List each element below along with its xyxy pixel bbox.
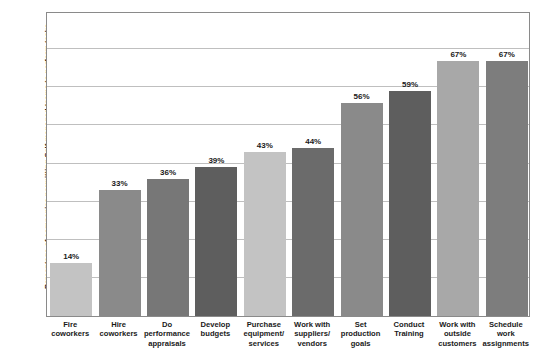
x-axis-label: Firecoworkers: [46, 320, 94, 339]
bar-value-label: 43%: [257, 141, 273, 150]
bar-group: 43%: [244, 11, 286, 316]
x-axis-label-line: Schedule: [482, 320, 530, 329]
bar-value-label: 36%: [160, 168, 176, 177]
x-axis-label-line: customers: [433, 339, 481, 348]
x-axis-label-line: production: [336, 329, 384, 338]
bar: [50, 263, 92, 316]
x-axis-label-line: services: [240, 339, 288, 348]
x-axis-label: Purchaseequipment/services: [240, 320, 288, 348]
bar: [341, 103, 383, 317]
bar-group: 36%: [147, 11, 189, 316]
x-axis-label-line: Hire: [94, 320, 142, 329]
bar-value-label: 67%: [450, 50, 466, 59]
x-axis-label: Work withsuppliers/vendors: [288, 320, 336, 348]
x-axis-label-line: Purchase: [240, 320, 288, 329]
bar-group: 67%: [486, 11, 528, 316]
bar-group: 14%: [50, 11, 92, 316]
x-axis-label: Scheduleworkassignments: [482, 320, 530, 348]
bar-group: 67%: [437, 11, 479, 316]
bar-value-label: 59%: [402, 80, 418, 89]
x-axis-label: Doperformanceappraisals: [143, 320, 191, 348]
bar: [292, 148, 334, 316]
x-axis-label-line: performance: [143, 329, 191, 338]
bar-value-label: 67%: [499, 50, 515, 59]
bar-value-label: 14%: [63, 252, 79, 261]
x-axis-label-line: budgets: [191, 329, 239, 338]
x-axis-label-line: work: [482, 329, 530, 338]
x-axis-label-line: Work with: [433, 320, 481, 329]
x-axis-label-line: suppliers/: [288, 329, 336, 338]
bar-value-label: 39%: [208, 156, 224, 165]
x-axis-label: Developbudgets: [191, 320, 239, 339]
x-axis-label-line: Conduct: [385, 320, 433, 329]
bar: [389, 91, 431, 316]
bar: [99, 190, 141, 316]
bar-group: 33%: [99, 11, 141, 316]
bars-layer: 14%33%36%39%43%44%56%59%67%67%: [47, 13, 529, 316]
bar-group: 59%: [389, 11, 431, 316]
bar: [486, 61, 528, 316]
x-axis-label-line: Training: [385, 329, 433, 338]
bar-group: 44%: [292, 11, 334, 316]
plot-area: 14%33%36%39%43%44%56%59%67%67%: [46, 12, 530, 317]
bar: [244, 152, 286, 316]
x-axis-label-line: assignments: [482, 339, 530, 348]
x-axis-labels: FirecoworkersHirecoworkersDoperformancea…: [46, 320, 530, 359]
x-axis-label-line: Do: [143, 320, 191, 329]
x-axis-label-line: coworkers: [46, 329, 94, 338]
x-axis-label-line: coworkers: [94, 329, 142, 338]
bar-value-label: 44%: [305, 137, 321, 146]
x-axis-label-line: Fire: [46, 320, 94, 329]
x-axis-label: ConductTraining: [385, 320, 433, 339]
bar-group: 56%: [341, 11, 383, 316]
x-axis-label-line: appraisals: [143, 339, 191, 348]
x-axis-label-line: Set: [336, 320, 384, 329]
x-axis-label: Setproductiongoals: [336, 320, 384, 348]
bar: [195, 167, 237, 316]
bar: [147, 179, 189, 316]
x-axis-label-line: Work with: [288, 320, 336, 329]
bar-chart: Percentage of companies permitting Self-…: [0, 0, 537, 359]
x-axis-label: Hirecoworkers: [94, 320, 142, 339]
x-axis-label-line: goals: [336, 339, 384, 348]
x-axis-label: Work withoutsidecustomers: [433, 320, 481, 348]
bar: [437, 61, 479, 316]
bar-group: 39%: [195, 11, 237, 316]
x-axis-label-line: equipment/: [240, 329, 288, 338]
x-axis-label-line: Develop: [191, 320, 239, 329]
x-axis-label-line: vendors: [288, 339, 336, 348]
bar-value-label: 56%: [354, 92, 370, 101]
bar-value-label: 33%: [112, 179, 128, 188]
x-axis-label-line: outside: [433, 329, 481, 338]
